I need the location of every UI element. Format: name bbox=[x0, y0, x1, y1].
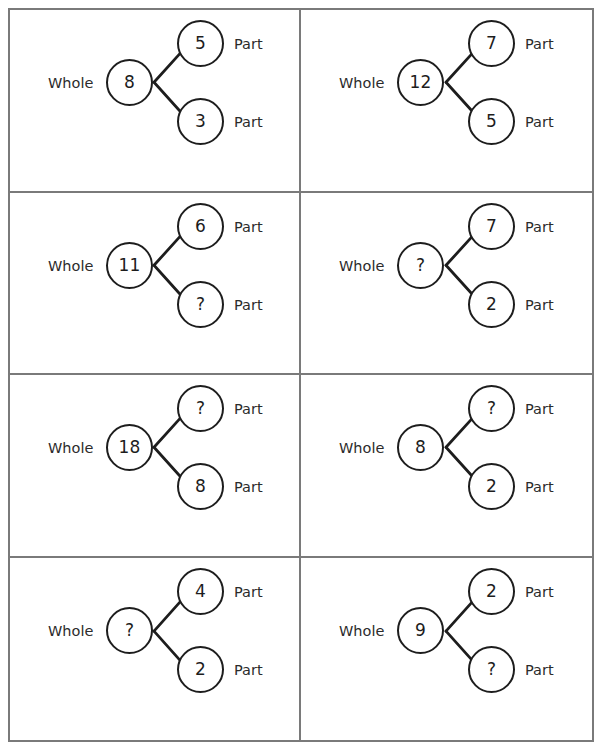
bond-cell-3: Whole 11 6 ? Part Part bbox=[10, 193, 301, 376]
bond-cell-2: Whole 12 7 5 Part Part bbox=[301, 10, 592, 193]
whole-node[interactable]: 18 bbox=[106, 424, 153, 471]
part2-label: Part bbox=[234, 480, 263, 495]
number-bond-diagram: Whole 18 ? 8 Part Part bbox=[10, 375, 299, 556]
bond-cell-6: Whole 8 ? 2 Part Part bbox=[301, 375, 592, 558]
whole-label: Whole bbox=[48, 624, 93, 639]
worksheet-page: Whole 8 5 3 Part Part Whole 12 7 5 Part … bbox=[8, 8, 594, 742]
number-bond-diagram: Whole 9 2 ? Part Part bbox=[301, 558, 592, 741]
part2-node[interactable]: ? bbox=[177, 281, 224, 328]
part2-label: Part bbox=[525, 480, 554, 495]
part2-label: Part bbox=[525, 298, 554, 313]
bond-cell-1: Whole 8 5 3 Part Part bbox=[10, 10, 301, 193]
part1-node[interactable]: 7 bbox=[468, 203, 515, 250]
part2-node[interactable]: ? bbox=[468, 646, 515, 693]
whole-node[interactable]: 9 bbox=[397, 607, 444, 654]
part1-label: Part bbox=[234, 220, 263, 235]
number-bond-diagram: Whole 11 6 ? Part Part bbox=[10, 193, 299, 374]
part1-node[interactable]: 2 bbox=[468, 568, 515, 615]
whole-node[interactable]: 8 bbox=[106, 59, 153, 106]
whole-label: Whole bbox=[48, 76, 93, 91]
whole-node[interactable]: 12 bbox=[397, 59, 444, 106]
bond-cell-5: Whole 18 ? 8 Part Part bbox=[10, 375, 301, 558]
part1-node[interactable]: 5 bbox=[177, 20, 224, 67]
bond-cell-7: Whole ? 4 2 Part Part bbox=[10, 558, 301, 741]
part1-node[interactable]: ? bbox=[468, 385, 515, 432]
whole-node[interactable]: 11 bbox=[106, 242, 153, 289]
part2-node[interactable]: 2 bbox=[468, 463, 515, 510]
part1-label: Part bbox=[525, 585, 554, 600]
part1-node[interactable]: ? bbox=[177, 385, 224, 432]
part1-label: Part bbox=[234, 585, 263, 600]
whole-label: Whole bbox=[48, 259, 93, 274]
part2-label: Part bbox=[234, 663, 263, 678]
bond-cell-4: Whole ? 7 2 Part Part bbox=[301, 193, 592, 376]
whole-node[interactable]: ? bbox=[106, 607, 153, 654]
part2-label: Part bbox=[234, 298, 263, 313]
part2-label: Part bbox=[525, 115, 554, 130]
whole-label: Whole bbox=[48, 441, 93, 456]
part2-label: Part bbox=[525, 663, 554, 678]
whole-label: Whole bbox=[339, 259, 384, 274]
part2-node[interactable]: 2 bbox=[468, 281, 515, 328]
whole-label: Whole bbox=[339, 76, 384, 91]
worksheet-grid: Whole 8 5 3 Part Part Whole 12 7 5 Part … bbox=[10, 10, 592, 740]
number-bond-diagram: Whole 12 7 5 Part Part bbox=[301, 10, 592, 191]
part1-node[interactable]: 6 bbox=[177, 203, 224, 250]
whole-node[interactable]: 8 bbox=[397, 424, 444, 471]
part1-label: Part bbox=[525, 402, 554, 417]
whole-label: Whole bbox=[339, 441, 384, 456]
whole-label: Whole bbox=[339, 624, 384, 639]
part2-node[interactable]: 5 bbox=[468, 98, 515, 145]
part2-node[interactable]: 8 bbox=[177, 463, 224, 510]
part1-label: Part bbox=[525, 220, 554, 235]
whole-node[interactable]: ? bbox=[397, 242, 444, 289]
part2-label: Part bbox=[234, 115, 263, 130]
part1-label: Part bbox=[234, 37, 263, 52]
part2-node[interactable]: 2 bbox=[177, 646, 224, 693]
part2-node[interactable]: 3 bbox=[177, 98, 224, 145]
part1-node[interactable]: 4 bbox=[177, 568, 224, 615]
part1-node[interactable]: 7 bbox=[468, 20, 515, 67]
part1-label: Part bbox=[234, 402, 263, 417]
part1-label: Part bbox=[525, 37, 554, 52]
bond-cell-8: Whole 9 2 ? Part Part bbox=[301, 558, 592, 741]
number-bond-diagram: Whole ? 7 2 Part Part bbox=[301, 193, 592, 374]
number-bond-diagram: Whole ? 4 2 Part Part bbox=[10, 558, 299, 741]
number-bond-diagram: Whole 8 ? 2 Part Part bbox=[301, 375, 592, 556]
number-bond-diagram: Whole 8 5 3 Part Part bbox=[10, 10, 299, 191]
